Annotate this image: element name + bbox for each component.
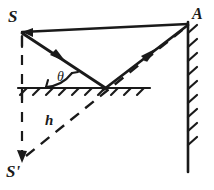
diagram-canvas: [0, 0, 214, 190]
direct-path-S-to-A: [22, 24, 188, 37]
direct-path-line: [22, 24, 188, 32]
label-wall-point-A: A: [192, 6, 203, 22]
label-source-S: S: [8, 8, 17, 25]
incident-ray-arrowhead: [50, 49, 66, 62]
reflected-ray-mirror-to-A: [103, 25, 188, 90]
label-height-h: h: [45, 113, 53, 128]
label-image-source-S-prime: S': [6, 163, 20, 180]
wall-hatch-group: [188, 25, 197, 145]
horizontal-mirror-surface: [18, 88, 150, 95]
angle-arc-tick-right: [72, 72, 78, 73]
vertical-wall-surface: [188, 22, 197, 172]
label-angle-theta: θ: [57, 70, 64, 84]
reflection-diagram-figure: S A S' h θ: [0, 0, 214, 190]
